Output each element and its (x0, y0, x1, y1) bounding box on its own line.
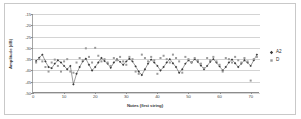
data-point (237, 59, 239, 61)
data-point (163, 55, 165, 57)
series-layer (33, 14, 260, 93)
data-point (38, 58, 40, 60)
data-point (209, 59, 211, 61)
data-point (132, 58, 134, 60)
x-tick-label: 70 (248, 94, 252, 99)
legend-entry-d[interactable]: D (269, 56, 295, 64)
data-point (256, 56, 258, 58)
data-point (253, 58, 255, 60)
data-point (91, 62, 93, 64)
data-point (63, 60, 65, 62)
data-point (187, 58, 189, 60)
data-point (75, 73, 77, 75)
data-point (243, 57, 245, 59)
gridline (33, 93, 260, 94)
data-point (85, 47, 87, 49)
data-point (35, 62, 37, 64)
data-point (113, 57, 115, 59)
x-tick-label: 10 (62, 94, 66, 99)
data-point (225, 57, 227, 59)
legend-entry-a2[interactable]: A2 (269, 48, 295, 56)
x-tick-label: 40 (155, 94, 159, 99)
data-point (110, 65, 112, 67)
data-point (175, 57, 177, 59)
data-point (76, 62, 78, 64)
data-point (200, 63, 202, 65)
series-a2 (35, 53, 258, 85)
data-point (247, 60, 249, 62)
diamond-marker (269, 50, 274, 55)
amplitude-chart: Amplitude (dB) Notes (first string) -15-… (5, 4, 297, 116)
data-point (231, 62, 233, 64)
data-point (250, 80, 252, 82)
data-point (184, 56, 186, 58)
data-point (44, 60, 46, 62)
data-point (48, 71, 50, 73)
y-axis-title: Amplitude (dB) (8, 39, 13, 69)
data-point (122, 60, 124, 62)
data-point (156, 73, 158, 75)
data-point (125, 64, 127, 66)
data-point (69, 71, 71, 73)
data-point (178, 60, 180, 62)
data-point (119, 56, 121, 58)
data-point (116, 59, 118, 61)
data-point (104, 58, 106, 60)
data-point (128, 56, 130, 58)
data-point (78, 66, 80, 68)
figure-frame: Amplitude (dB) Notes (first string) -15-… (4, 3, 296, 115)
x-tick-label: 20 (93, 94, 97, 99)
data-point (147, 60, 149, 62)
data-point (134, 65, 136, 67)
data-point (150, 56, 152, 58)
chart-legend: A2D (269, 48, 295, 64)
data-point (100, 60, 102, 62)
x-tick-label: 50 (186, 94, 190, 99)
x-tick-label: 60 (217, 94, 221, 99)
data-point (240, 62, 242, 64)
data-point (203, 67, 205, 69)
data-point (222, 71, 224, 73)
data-point (256, 53, 258, 55)
data-point (72, 72, 74, 74)
data-point (172, 54, 174, 56)
data-point (82, 59, 84, 61)
data-point (212, 56, 214, 58)
data-point (88, 56, 90, 58)
data-point (66, 58, 68, 60)
data-point (228, 58, 230, 60)
data-point (191, 62, 193, 64)
data-point (72, 83, 74, 85)
data-point (138, 73, 140, 75)
x-tick-label: 30 (124, 94, 128, 99)
data-point (153, 59, 155, 61)
data-point (47, 66, 49, 68)
data-point (144, 57, 146, 59)
data-point (141, 54, 143, 56)
series-d (35, 47, 258, 82)
data-point (44, 66, 46, 68)
square-marker (269, 58, 274, 63)
data-point (97, 55, 99, 57)
data-point (215, 60, 217, 62)
data-point (41, 60, 43, 62)
data-point (166, 58, 168, 60)
x-axis-title: Notes (first string) (127, 103, 163, 108)
data-point (60, 71, 62, 73)
data-point (57, 65, 59, 67)
series-line (36, 55, 257, 85)
data-point (88, 64, 90, 66)
data-point (206, 57, 208, 59)
data-point (79, 57, 81, 59)
data-point (181, 72, 183, 74)
data-point (169, 62, 171, 64)
data-point (219, 64, 221, 66)
x-tick-label: 0 (32, 94, 34, 99)
data-point (194, 57, 196, 59)
data-point (135, 71, 137, 73)
data-point (234, 56, 236, 58)
data-point (107, 62, 109, 64)
data-point (159, 57, 161, 59)
plot-area: -15-20-25-30-35-40-45-50 010203040506070 (32, 14, 259, 93)
data-point (197, 59, 199, 61)
